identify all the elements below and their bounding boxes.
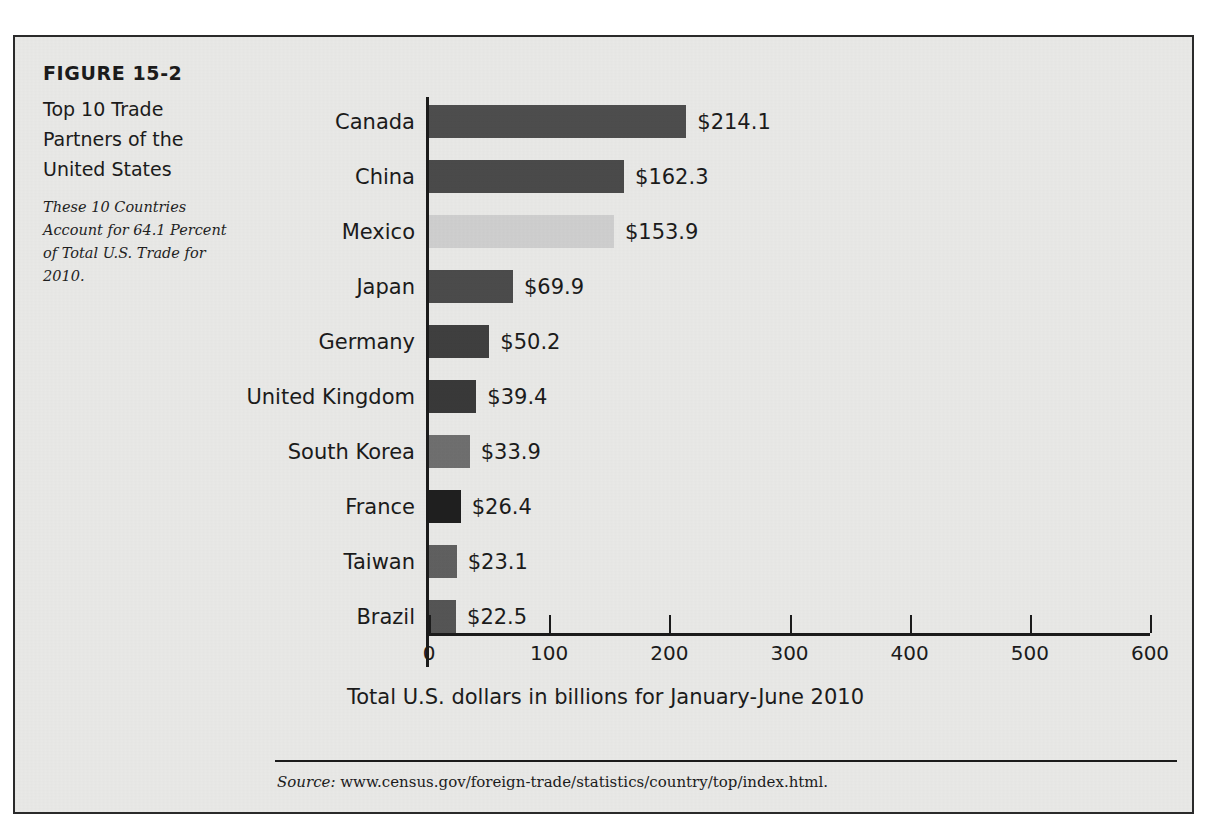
- bar-row: Germany$50.2: [15, 325, 1196, 358]
- x-axis-line: [426, 633, 1150, 636]
- bar-category-label: South Korea: [288, 440, 415, 464]
- x-axis-tick: [1150, 615, 1152, 633]
- bar-category-label: Japan: [356, 275, 415, 299]
- bar-chart-plot-area: Canada$214.1China$162.3Mexico$153.9Japan…: [15, 37, 1196, 816]
- source-divider: [275, 760, 1177, 762]
- x-axis-tick: [1030, 615, 1032, 633]
- bar-row: Mexico$153.9: [15, 215, 1196, 248]
- source-url: www.census.gov/foreign-trade/statistics/…: [340, 773, 828, 791]
- bar: [429, 160, 624, 193]
- bar: [429, 490, 461, 523]
- bar-row: South Korea$33.9: [15, 435, 1196, 468]
- bar-value-label: $69.9: [524, 275, 584, 299]
- x-axis-tick-label: 500: [1011, 641, 1049, 665]
- bar-value-label: $33.9: [481, 440, 541, 464]
- bar-row: Brazil$22.5: [15, 600, 1196, 633]
- x-axis-tick-label: 600: [1131, 641, 1169, 665]
- bar-value-label: $153.9: [625, 220, 698, 244]
- x-axis-tick-label: 300: [770, 641, 808, 665]
- bar-row: China$162.3: [15, 160, 1196, 193]
- bar-category-label: France: [345, 495, 415, 519]
- bar-value-label: $26.4: [472, 495, 532, 519]
- bar-row: Canada$214.1: [15, 105, 1196, 138]
- x-axis-tick-label: 0: [423, 641, 436, 665]
- bar-row: France$26.4: [15, 490, 1196, 523]
- bar-value-label: $39.4: [487, 385, 547, 409]
- bar-category-label: China: [355, 165, 415, 189]
- bar-category-label: Taiwan: [344, 550, 415, 574]
- x-axis-tick: [549, 615, 551, 633]
- bar: [429, 325, 489, 358]
- bar-value-label: $50.2: [500, 330, 560, 354]
- bar-category-label: Brazil: [356, 605, 415, 629]
- x-axis-tick-label: 400: [891, 641, 929, 665]
- bar: [429, 545, 457, 578]
- bar-category-label: Mexico: [342, 220, 415, 244]
- bar-category-label: Canada: [335, 110, 415, 134]
- bar: [429, 215, 614, 248]
- source-label: Source:: [277, 773, 335, 791]
- bar-value-label: $214.1: [697, 110, 770, 134]
- x-axis-tick: [790, 615, 792, 633]
- bar: [429, 600, 456, 633]
- source-line: Source: www.census.gov/foreign-trade/sta…: [277, 773, 828, 791]
- bar: [429, 105, 686, 138]
- figure-frame: FIGURE 15-2 Top 10 Trade Partners of the…: [13, 35, 1194, 814]
- x-axis-tick-label: 200: [650, 641, 688, 665]
- bar-category-label: United Kingdom: [246, 385, 415, 409]
- bar: [429, 380, 476, 413]
- bar-value-label: $23.1: [468, 550, 528, 574]
- bar-category-label: Germany: [318, 330, 415, 354]
- x-axis-title: Total U.S. dollars in billions for Janua…: [15, 685, 1196, 709]
- bar-row: Taiwan$23.1: [15, 545, 1196, 578]
- x-axis-tick: [429, 615, 431, 633]
- bar-row: United Kingdom$39.4: [15, 380, 1196, 413]
- bar-value-label: $162.3: [635, 165, 708, 189]
- x-axis-tick: [910, 615, 912, 633]
- bar-row: Japan$69.9: [15, 270, 1196, 303]
- bar-value-label: $22.5: [467, 605, 527, 629]
- bar: [429, 270, 513, 303]
- bar: [429, 435, 470, 468]
- x-axis-tick: [669, 615, 671, 633]
- x-axis-tick-label: 100: [530, 641, 568, 665]
